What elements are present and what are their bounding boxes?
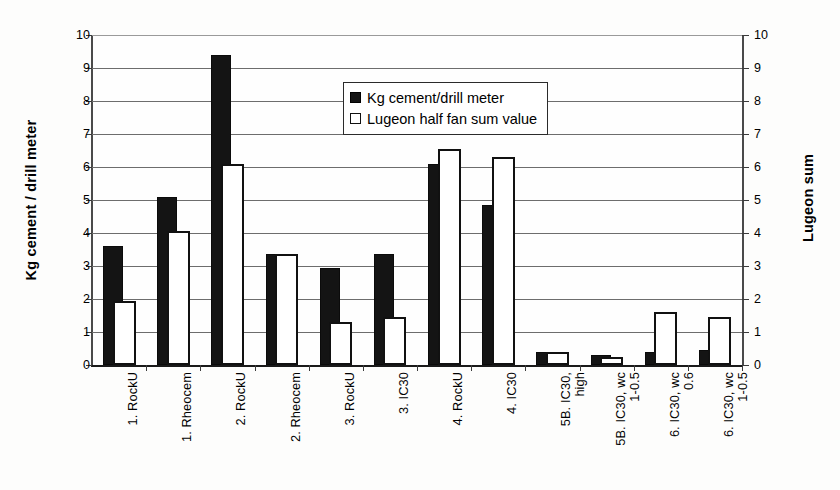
- x-axis-label: 6. IC30, wc 1-0.5: [722, 372, 749, 490]
- y-axis-left-title: Kg cement / drill meter: [23, 90, 39, 310]
- y-tick-right: [742, 167, 749, 168]
- bar-group: [146, 35, 200, 365]
- bar-lugeon: [383, 317, 406, 365]
- y-tick-label-right: 10: [754, 29, 794, 42]
- y-tick-right: [742, 365, 749, 366]
- y-tick-label-left: 10: [50, 29, 90, 42]
- y-tick-label-right: 3: [754, 260, 794, 273]
- legend-item-kg-cement: Kg cement/drill meter: [350, 87, 537, 108]
- y-tick-label-right: 9: [754, 62, 794, 75]
- x-axis-label: 6. IC30, wc 0.6: [668, 372, 695, 490]
- x-axis-label: 1. Rheocem: [180, 372, 194, 490]
- x-tick: [580, 365, 581, 371]
- bar-group: [255, 35, 309, 365]
- y-tick-label-left: 1: [50, 326, 90, 339]
- bar-lugeon: [275, 254, 298, 365]
- x-axis-category-labels: 1. RockU1. Rheocem2. RockU2. Rheocem3. R…: [92, 372, 742, 490]
- legend-swatch-light-icon: [350, 113, 361, 124]
- x-axis-label: 2. Rheocem: [289, 372, 303, 490]
- bar-group: [92, 35, 146, 365]
- y-tick-right: [742, 134, 749, 135]
- bar-lugeon: [113, 301, 136, 365]
- y-tick-label-left: 2: [50, 293, 90, 306]
- y-tick-right: [742, 233, 749, 234]
- bar-lugeon: [600, 357, 623, 365]
- y-tick-label-right: 0: [754, 359, 794, 372]
- legend-label-kg-cement: Kg cement/drill meter: [367, 90, 504, 106]
- x-axis-label: 1. RockU: [126, 372, 140, 490]
- chart-figure: Kg cement / drill meter Lugeon sum 00112…: [0, 0, 840, 490]
- y-tick-right: [742, 200, 749, 201]
- x-axis-label: 5B. IC30, wc 1-0.5: [614, 372, 641, 490]
- x-axis-label: 2. RockU: [234, 372, 248, 490]
- y-tick-label-right: 8: [754, 95, 794, 108]
- y-axis-right-title: Lugeon sum: [800, 98, 816, 298]
- y-tick-label-right: 6: [754, 161, 794, 174]
- bar-lugeon: [221, 164, 244, 365]
- x-axis-label: 4. IC30: [505, 372, 519, 490]
- chart-legend: Kg cement/drill meter Lugeon half fan su…: [343, 82, 548, 135]
- legend-swatch-dark-icon: [350, 92, 361, 103]
- y-tick-label-left: 7: [50, 128, 90, 141]
- x-axis-label: 4. RockU: [451, 372, 465, 490]
- bar-group: [200, 35, 254, 365]
- bar-group: [580, 35, 634, 365]
- bar-group: [634, 35, 688, 365]
- bar-group: [688, 35, 742, 365]
- x-tick: [525, 365, 526, 371]
- x-tick: [363, 365, 364, 371]
- bar-lugeon: [654, 312, 677, 365]
- x-axis-label: 3. RockU: [343, 372, 357, 490]
- x-tick: [309, 365, 310, 371]
- y-tick-right: [742, 35, 749, 36]
- y-tick-label-left: 5: [50, 194, 90, 207]
- x-tick: [742, 365, 743, 371]
- x-tick: [146, 365, 147, 371]
- x-tick: [417, 365, 418, 371]
- y-tick-label-left: 0: [50, 359, 90, 372]
- x-tick: [255, 365, 256, 371]
- y-tick-right: [742, 332, 749, 333]
- y-tick-label-right: 4: [754, 227, 794, 240]
- y-tick-label-right: 2: [754, 293, 794, 306]
- y-tick-label-left: 8: [50, 95, 90, 108]
- bar-lugeon: [167, 231, 190, 365]
- x-tick: [200, 365, 201, 371]
- y-tick-label-left: 4: [50, 227, 90, 240]
- y-tick-label-left: 3: [50, 260, 90, 273]
- legend-label-lugeon: Lugeon half fan sum value: [367, 111, 537, 127]
- y-tick-label-right: 5: [754, 194, 794, 207]
- y-tick-label-left: 6: [50, 161, 90, 174]
- x-axis-label: 3. IC30: [397, 372, 411, 490]
- x-tick: [471, 365, 472, 371]
- legend-item-lugeon: Lugeon half fan sum value: [350, 108, 537, 129]
- y-tick-right: [742, 68, 749, 69]
- bar-lugeon: [438, 149, 461, 365]
- y-tick-label-right: 1: [754, 326, 794, 339]
- bar-lugeon: [546, 352, 569, 365]
- bar-lugeon: [329, 322, 352, 365]
- x-tick: [634, 365, 635, 371]
- y-tick-right: [742, 101, 749, 102]
- y-tick-label-left: 9: [50, 62, 90, 75]
- y-tick-right: [742, 266, 749, 267]
- y-tick-right: [742, 299, 749, 300]
- x-tick: [688, 365, 689, 371]
- x-axis-label: 5B. IC30, high: [559, 372, 586, 490]
- y-tick-label-right: 7: [754, 128, 794, 141]
- bar-lugeon: [708, 317, 731, 365]
- bar-lugeon: [492, 157, 515, 365]
- plot-area: 001122334455667788991010 Kg cement/drill…: [92, 35, 742, 365]
